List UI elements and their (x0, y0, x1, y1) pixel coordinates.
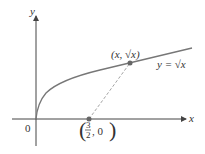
y-axis-label: y (30, 6, 35, 17)
curve-label: y = √x (157, 59, 186, 70)
origin-label: 0 (25, 123, 31, 134)
fraction-numerator: 3 (86, 121, 91, 130)
sqrt-distance-diagram: ( ) y x 0 (x, √x) y = √x 3 2 , 0 (0, 0, 205, 154)
svg-text:): ) (109, 117, 116, 142)
point-on-curve-label: (x, √x) (111, 49, 140, 60)
fixed-point-label: , 0 (92, 126, 103, 137)
x-axis-label: x (189, 113, 194, 124)
fraction-denominator: 2 (86, 131, 91, 140)
point-on-curve (128, 61, 133, 66)
